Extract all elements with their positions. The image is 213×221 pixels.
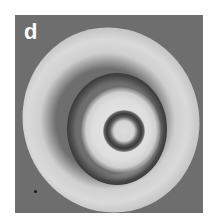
panel-label: d — [24, 21, 37, 43]
figure-panel-d: d — [15, 15, 203, 213]
central-dark-ring — [103, 110, 145, 152]
dark-speck — [34, 190, 37, 193]
